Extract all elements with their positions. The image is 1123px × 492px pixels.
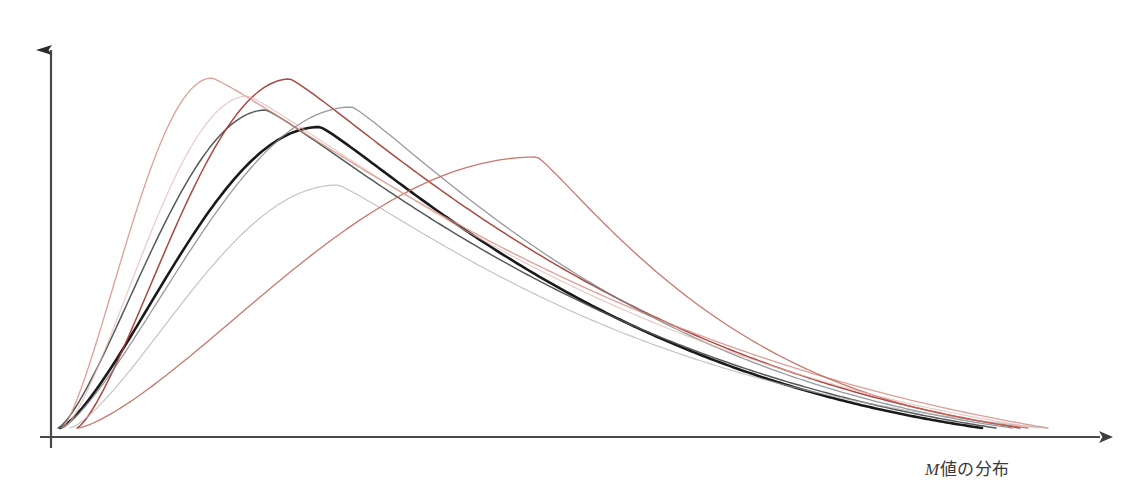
curves-group (58, 78, 1048, 428)
chart-figure: M値の分布 (0, 0, 1123, 492)
x-axis-label: M値の分布 (925, 455, 1010, 480)
curve-light-pink (62, 78, 1048, 428)
x-axis-label-text: 値の分布 (940, 460, 1010, 479)
curve-faint-gray (70, 185, 1046, 428)
x-axis-label-symbol: M (925, 460, 940, 479)
chart-canvas (0, 0, 1123, 492)
curve-dark-red (77, 79, 1020, 428)
curve-mid-gray (60, 107, 1012, 428)
